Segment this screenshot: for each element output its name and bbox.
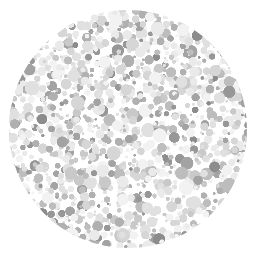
ishihara-plate-container: Ishihara color vision test plate (graysc… xyxy=(0,0,257,258)
ishihara-dot-mosaic xyxy=(0,0,257,258)
